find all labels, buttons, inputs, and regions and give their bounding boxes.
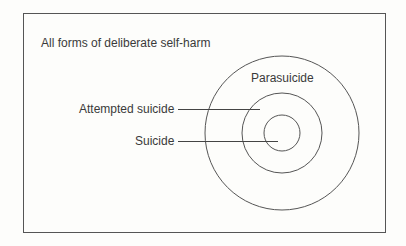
- suicide-circle: [264, 115, 300, 151]
- parasuicide-label: Parasuicide: [251, 72, 314, 84]
- attempted-suicide-label: Attempted suicide: [79, 103, 174, 115]
- suicide-label: Suicide: [135, 135, 174, 147]
- diagram-title: All forms of deliberate self-harm: [41, 37, 210, 49]
- attempted-suicide-circle: [242, 93, 322, 173]
